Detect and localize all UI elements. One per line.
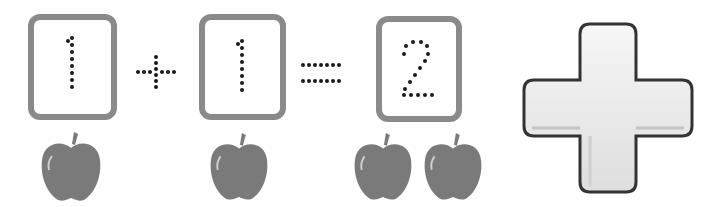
apple-icon bbox=[423, 130, 483, 202]
dotted-plus-operator bbox=[135, 52, 177, 94]
number-card-addend2 bbox=[199, 14, 286, 120]
dotted-digit-1 bbox=[205, 20, 280, 114]
dotted-digit-2 bbox=[382, 22, 456, 116]
number-card-sum bbox=[376, 16, 462, 122]
apple-icon bbox=[40, 130, 102, 202]
dotted-digit-1 bbox=[34, 20, 111, 114]
big-plus-icon bbox=[522, 22, 694, 194]
number-card-addend1 bbox=[28, 14, 117, 120]
apple-icon bbox=[353, 130, 413, 202]
apple-icon bbox=[209, 130, 269, 202]
dotted-equals-operator bbox=[300, 60, 342, 86]
